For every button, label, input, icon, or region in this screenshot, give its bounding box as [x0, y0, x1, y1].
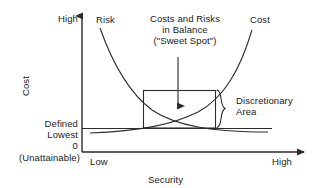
x-axis-title: Security	[148, 174, 183, 185]
y-axis-defined-label: Defined	[38, 118, 78, 129]
risk-curve-label: Risk	[96, 14, 115, 25]
sweet-spot-annotation: Costs and Risks in Balance ("Sweet Spot"…	[138, 13, 232, 46]
y-axis-zero-label: 0	[38, 140, 78, 151]
x-axis-low-label: Low	[90, 156, 108, 167]
cost-curve-label: Cost	[250, 14, 270, 25]
y-axis-lowest-label: Lowest	[38, 129, 78, 140]
discretionary-area-annotation: Discretionary Area	[236, 95, 320, 117]
y-axis-title: Cost	[20, 76, 31, 96]
cost-security-tradeoff-figure: High Cost Defined Lowest 0 (Unattainable…	[0, 0, 326, 188]
y-axis-top-label: High	[38, 13, 78, 24]
x-axis-high-label: High	[272, 156, 292, 167]
y-axis-unattainable-label: (Unattainable)	[2, 152, 80, 163]
